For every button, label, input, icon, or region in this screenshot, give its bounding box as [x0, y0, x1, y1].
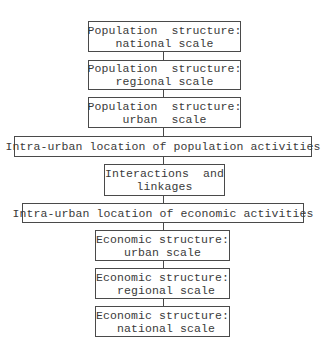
connector-line [163, 89, 164, 97]
box-economic-national: Economic structure: national scale [95, 306, 230, 337]
connector-line [163, 127, 164, 136]
box-economic-urban: Economic structure: urban scale [95, 230, 230, 261]
connector-line [163, 195, 164, 203]
box-population-regional: Population structure: regional scale [88, 60, 241, 90]
box-line: Economic structure: [96, 309, 229, 322]
box-line: Population structure: [87, 100, 241, 113]
box-line: Intra-urban location of population activ… [5, 140, 320, 153]
box-economic-regional: Economic structure: regional scale [95, 268, 230, 299]
box-line: Economic structure: [96, 233, 229, 246]
box-line: Economic structure: [96, 271, 229, 284]
box-line: national scale [110, 322, 215, 335]
box-intra-urban-population: Intra-urban location of population activ… [14, 136, 312, 157]
box-line: regional scale [110, 284, 215, 297]
box-line: Intra-urban location of economic activit… [12, 207, 313, 220]
box-interactions-linkages: Interactions and linkages [104, 164, 225, 196]
connector-line [163, 156, 164, 164]
box-line: Interactions and [105, 167, 224, 180]
box-population-national: Population structure: national scale [88, 21, 241, 52]
connector-line [163, 222, 164, 230]
box-line: Population structure: [87, 62, 241, 75]
box-line: urban scale [122, 113, 206, 126]
connector-line [163, 298, 164, 306]
connector-line [163, 51, 164, 60]
box-population-urban: Population structure: urban scale [88, 97, 241, 128]
box-line: linkages [136, 180, 192, 193]
box-line: national scale [115, 37, 213, 50]
box-intra-urban-economic: Intra-urban location of economic activit… [22, 203, 304, 223]
box-line: Population structure: [87, 24, 241, 37]
connector-line [163, 260, 164, 268]
box-line: regional scale [115, 75, 213, 88]
box-line: urban scale [124, 246, 201, 259]
